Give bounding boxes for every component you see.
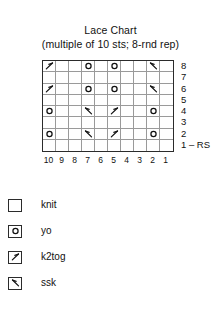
chart-cell-ssk (147, 84, 160, 95)
chart-row (43, 61, 173, 72)
chart-cell-knit (95, 72, 108, 83)
legend-label: k2tog (41, 251, 65, 263)
chart-cell-knit (108, 140, 121, 151)
column-number: 5 (107, 155, 120, 165)
chart-cell-knit (95, 117, 108, 128)
k2tog-icon (108, 106, 120, 116)
chart-cell-knit (121, 129, 134, 140)
row-number-axis: 87654321 – RS (181, 60, 210, 150)
column-number: 9 (55, 155, 68, 165)
chart-cell-yo (108, 84, 121, 95)
chart-cell-knit (69, 72, 82, 83)
column-number: 3 (133, 155, 146, 165)
column-number: 2 (146, 155, 159, 165)
chart-cell-knit (134, 106, 147, 117)
k2tog-slant-icon (8, 251, 22, 264)
chart-cell-knit (82, 140, 95, 151)
chart-cell-knit (95, 61, 108, 72)
chart-cell-knit (43, 117, 56, 128)
row-number: 3 (181, 116, 210, 127)
ssk-icon (147, 61, 159, 71)
legend-item-knit: knit (8, 192, 65, 218)
chart-cell-knit (160, 106, 173, 117)
chart-cell-knit (121, 106, 134, 117)
chart-cell-knit (160, 117, 173, 128)
legend: knityok2togssk (8, 192, 65, 296)
chart-row (43, 106, 173, 117)
chart-cell-knit (147, 117, 160, 128)
ssk-icon (82, 129, 94, 139)
chart-cell-knit (147, 140, 160, 151)
chart-cell-knit (56, 106, 69, 117)
chart-cell-knit (160, 72, 173, 83)
chart-cell-knit (69, 84, 82, 95)
chart-cell-knit (147, 95, 160, 106)
chart-cell-yo (82, 84, 95, 95)
chart-cell-knit (95, 140, 108, 151)
chart-cell-knit (43, 140, 56, 151)
page-subtitle: (multiple of 10 sts; 8-rnd rep) (0, 37, 221, 51)
chart-cell-yo (43, 129, 56, 140)
chart-cell-knit (121, 140, 134, 151)
chart-cell-knit (69, 117, 82, 128)
row-number: 5 (181, 94, 210, 105)
chart-cell-yo (82, 61, 95, 72)
chart-cell-ssk (82, 129, 95, 140)
title-block: Lace Chart (multiple of 10 sts; 8-rnd re… (0, 0, 221, 51)
chart-cell-knit (95, 106, 108, 117)
chart-cell-ssk (147, 61, 160, 72)
chart-cell-k2tog (43, 61, 56, 72)
chart-cell-knit (69, 95, 82, 106)
chart-cell-knit (69, 106, 82, 117)
chart-row (43, 95, 173, 106)
chart-cell-knit (160, 95, 173, 106)
row-number: 4 (181, 105, 210, 116)
chart-cell-knit (43, 72, 56, 83)
ssk-glyph (9, 278, 21, 289)
chart-cell-k2tog (108, 106, 121, 117)
yo-icon (108, 84, 120, 94)
column-number: 4 (120, 155, 133, 165)
chart-cell-knit (121, 61, 134, 72)
chart-cell-knit (147, 72, 160, 83)
legend-label: knit (41, 199, 57, 211)
ssk-icon (147, 84, 159, 94)
chart-cell-knit (160, 84, 173, 95)
chart-cell-knit (134, 95, 147, 106)
k2tog-icon (43, 61, 55, 71)
chart-cell-knit (134, 72, 147, 83)
chart-cell-knit (134, 117, 147, 128)
chart-row (43, 140, 173, 151)
chart-cell-knit (121, 84, 134, 95)
column-number: 6 (94, 155, 107, 165)
yo-icon (43, 129, 55, 139)
chart-cell-knit (121, 95, 134, 106)
lace-chart-grid (42, 60, 174, 152)
yo-icon (147, 129, 159, 139)
chart-row (43, 84, 173, 95)
chart-cell-knit (56, 84, 69, 95)
chart-cell-knit (108, 95, 121, 106)
chart-cell-knit (160, 61, 173, 72)
chart-cell-knit (134, 129, 147, 140)
circle-icon (8, 225, 22, 238)
chart-row (43, 129, 173, 140)
chart-cell-knit (56, 140, 69, 151)
chart-cell-knit (121, 72, 134, 83)
empty-square-icon (8, 199, 22, 212)
column-number: 7 (81, 155, 94, 165)
k2tog-icon (43, 84, 55, 94)
yo-icon (82, 61, 94, 71)
column-number-axis: 10987654321 (0, 155, 221, 165)
column-number: 1 (159, 155, 172, 165)
chart-cell-knit (56, 72, 69, 83)
chart-cell-knit (43, 95, 56, 106)
chart-cell-knit (134, 84, 147, 95)
chart-cell-knit (160, 140, 173, 151)
chart-cell-knit (82, 95, 95, 106)
chart-cell-knit (134, 140, 147, 151)
chart-cell-knit (56, 95, 69, 106)
chart-cell-knit (95, 84, 108, 95)
chart-cell-yo (147, 106, 160, 117)
chart-cell-knit (95, 95, 108, 106)
